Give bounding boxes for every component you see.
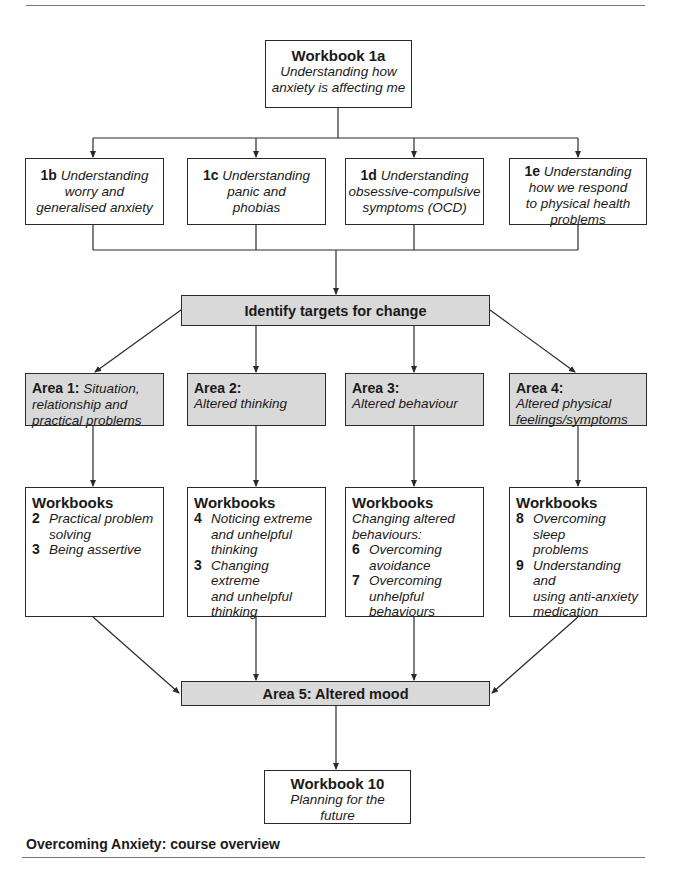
workbook-line: Changing extreme xyxy=(211,558,269,589)
workbook-line: medication xyxy=(533,604,598,619)
workbook-line: Understanding xyxy=(544,164,632,179)
workbook-number: 4 xyxy=(194,511,211,558)
workbook-line: to physical health xyxy=(510,196,646,212)
workbook-line: Overcoming xyxy=(369,573,442,588)
area-desc: Altered physical xyxy=(516,396,640,412)
workbooks-header: Workbooks xyxy=(516,494,640,511)
area-desc: Altered thinking xyxy=(194,396,319,412)
workbook-10-title: Workbook 10 xyxy=(265,775,410,792)
workbook-line: generalised anxiety xyxy=(26,200,163,216)
workbook-line: problems xyxy=(510,212,646,228)
workbook-line: Practical problem xyxy=(49,511,153,526)
workbook-item: 3 Changing extremeand unhelpfulthinking xyxy=(194,558,319,620)
workbook-number: 3 xyxy=(32,542,49,558)
workbook-number: 7 xyxy=(352,573,369,620)
area-1-box: Area 1: Situation, relationship and prac… xyxy=(25,373,164,426)
workbook-10-subtitle-line1: Planning for the xyxy=(265,792,410,808)
workbook-code: 1b xyxy=(41,167,57,183)
workbook-line: how we respond xyxy=(510,180,646,196)
workbook-line: using anti-anxiety xyxy=(533,589,638,604)
workbook-number: 2 xyxy=(32,511,49,542)
workbooks-header: Workbooks xyxy=(352,494,477,511)
workbook-item: 6 Overcomingavoidance xyxy=(352,542,477,573)
workbook-item: 8 Overcoming sleepproblems xyxy=(516,511,640,558)
workbooks-group-1: Workbooks 2 Practical problemsolving 3 B… xyxy=(25,487,164,617)
workbook-item: 9 Understanding andusing anti-anxietymed… xyxy=(516,558,640,620)
area-2-box: Area 2: Altered thinking xyxy=(187,373,326,426)
workbook-10-subtitle-line2: future xyxy=(265,808,410,824)
workbook-line: Understanding xyxy=(381,168,469,183)
workbook-1a-title: Workbook 1a xyxy=(266,47,411,64)
workbook-line: worry and xyxy=(26,184,163,200)
area-label: Area 4: xyxy=(516,380,640,396)
workbooks-group-2: Workbooks 4 Noticing extremeand unhelpfu… xyxy=(187,487,326,617)
workbook-line: symptoms (OCD) xyxy=(346,200,483,216)
workbook-item: 7 Overcomingunhelpful behaviours xyxy=(352,573,477,620)
workbook-line: panic and xyxy=(188,184,325,200)
workbook-item: 3 Being assertive xyxy=(32,542,157,558)
workbook-line: Understanding and xyxy=(533,558,621,589)
bottom-rule xyxy=(22,857,645,858)
workbook-item: 4 Noticing extremeand unhelpfulthinking xyxy=(194,511,319,558)
workbook-1e-box: 1e Understanding how we respond to physi… xyxy=(509,158,647,225)
workbook-line: Being assertive xyxy=(49,542,141,558)
workbook-1b-box: 1b Understanding worry and generalised a… xyxy=(25,158,164,225)
connector-lines xyxy=(0,0,673,874)
workbook-1c-box: 1c Understanding panic and phobias xyxy=(187,158,326,225)
area-desc: Situation, xyxy=(83,381,139,396)
workbook-line: phobias xyxy=(188,200,325,216)
area-label: Area 1: xyxy=(32,380,79,396)
area-5-label: Area 5: Altered mood xyxy=(262,686,408,702)
workbook-number: 9 xyxy=(516,558,533,620)
workbook-number: 6 xyxy=(352,542,369,573)
area-label: Area 2: xyxy=(194,380,319,396)
identify-targets-label: Identify targets for change xyxy=(244,303,426,319)
workbook-line: thinking xyxy=(211,542,258,557)
workbook-1a-subtitle-line1: Understanding how xyxy=(266,64,411,80)
area-4-box: Area 4: Altered physical feelings/sympto… xyxy=(509,373,647,426)
workbook-line: unhelpful behaviours xyxy=(369,589,435,620)
workbook-code: 1c xyxy=(203,167,219,183)
workbook-line: Noticing extreme xyxy=(211,511,312,526)
workbook-10-box: Workbook 10 Planning for the future xyxy=(264,770,411,824)
workbook-code: 1d xyxy=(361,167,377,183)
area-desc: practical problems xyxy=(32,413,157,429)
workbooks-note: Changing altered behaviours: xyxy=(352,511,477,542)
workbook-item: 2 Practical problemsolving xyxy=(32,511,157,542)
area-desc: relationship and xyxy=(32,397,157,413)
area-desc: Altered behaviour xyxy=(352,396,477,412)
figure-caption: Overcoming Anxiety: course overview xyxy=(26,836,280,852)
workbook-line: obsessive-compulsive xyxy=(346,184,483,200)
workbook-line: and unhelpful xyxy=(211,527,292,542)
workbook-line: and unhelpful xyxy=(211,589,292,604)
workbooks-group-4: Workbooks 8 Overcoming sleepproblems 9 U… xyxy=(509,487,647,617)
area-desc: feelings/symptoms xyxy=(516,412,640,428)
area-3-box: Area 3: Altered behaviour xyxy=(345,373,484,426)
workbook-number: 3 xyxy=(194,558,211,620)
workbook-1a-subtitle-line2: anxiety is affecting me xyxy=(266,80,411,96)
workbooks-group-3: Workbooks Changing altered behaviours: 6… xyxy=(345,487,484,617)
workbook-1d-box: 1d Understanding obsessive-compulsive sy… xyxy=(345,158,484,225)
workbook-line: Understanding xyxy=(222,168,310,183)
workbooks-header: Workbooks xyxy=(32,494,157,511)
workbooks-header: Workbooks xyxy=(194,494,319,511)
workbook-line: problems xyxy=(533,542,589,557)
workbook-line: Overcoming xyxy=(369,542,442,557)
workbook-number: 8 xyxy=(516,511,533,558)
workbook-line: thinking xyxy=(211,604,258,619)
workbook-line: avoidance xyxy=(369,558,431,573)
workbook-code: 1e xyxy=(524,163,540,179)
identify-targets-box: Identify targets for change xyxy=(181,295,490,326)
workbook-line: Overcoming sleep xyxy=(533,511,606,542)
area-5-box: Area 5: Altered mood xyxy=(181,681,490,706)
area-label: Area 3: xyxy=(352,380,477,396)
workbook-line: solving xyxy=(49,527,91,542)
workbook-1a-box: Workbook 1a Understanding how anxiety is… xyxy=(265,40,412,108)
workbook-line: Understanding xyxy=(61,168,149,183)
